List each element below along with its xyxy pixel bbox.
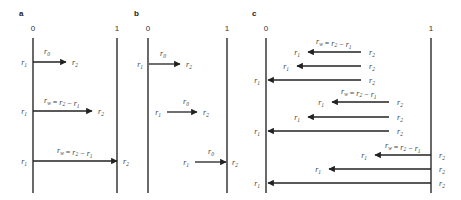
group-annotation: rw = r2 − r1 (316, 37, 352, 50)
group-annotation: rw = r2 − r1 (341, 87, 377, 100)
arrow-annotation: rw = r2 − r1 (44, 96, 80, 109)
end-label: r1 (294, 113, 300, 123)
end-label: r1 (318, 98, 324, 108)
panel-label: b (134, 9, 139, 18)
start-label: r1 (21, 157, 27, 167)
start-label: r2 (369, 62, 375, 72)
start-label: r1 (21, 107, 27, 117)
end-label: r1 (254, 76, 260, 86)
start-label: r2 (439, 179, 445, 189)
diagram-canvas: a01r1r2r0r1r2rw = r2 − r1r1r2rw = r2 − r… (0, 0, 461, 200)
arrow-group: r1r2r0 (21, 47, 78, 68)
group-annotation: rw = r2 − r1 (385, 141, 421, 154)
axis-label-0: 0 (146, 24, 151, 33)
arrow-annotation: r0 (208, 147, 214, 157)
axis-label-1: 1 (225, 24, 230, 33)
start-label: r2 (397, 127, 403, 137)
end-label: r1 (294, 48, 300, 58)
start-label: r2 (439, 165, 445, 175)
panel-c: c01rw = r2 − r1r2r1r2r1r2r1rw = r2 − r1r… (252, 9, 445, 193)
start-label: r1 (155, 108, 161, 118)
arrow-group: r1r2r0 (155, 97, 209, 118)
arrow-annotation: rw = r2 − r1 (57, 146, 93, 159)
end-label: r2 (186, 60, 192, 70)
start-label: r2 (439, 151, 445, 161)
start-label: r2 (397, 113, 403, 123)
arrow-group: rw = r2 − r1r2r1r2r1r2r1 (254, 87, 403, 137)
end-label: r2 (203, 108, 209, 118)
panel-b: b01r1r2r0r1r2r0r1r2r0 (134, 9, 238, 193)
arrow-group: r1r2r0 (137, 49, 192, 70)
start-label: r1 (21, 58, 27, 68)
panel-label: c (252, 9, 257, 18)
panel-a: a01r1r2r0r1r2rw = r2 − r1r1r2rw = r2 − r… (19, 9, 129, 193)
arrow-group: rw = r2 − r1r2r1r2r1r2r1 (254, 141, 445, 189)
arrow-group: r1r2rw = r2 − r1 (21, 146, 129, 167)
start-label: r2 (369, 76, 375, 86)
panel-label: a (19, 9, 24, 18)
start-label: r1 (183, 158, 189, 168)
arrow-annotation: r0 (183, 97, 189, 107)
panels: a01r1r2r0r1r2rw = r2 − r1r1r2rw = r2 − r… (19, 9, 445, 193)
end-label: r2 (98, 107, 104, 117)
axis-label-1: 1 (429, 24, 434, 33)
end-label: r1 (254, 179, 260, 189)
arrow-group: r1r2r0 (183, 147, 238, 168)
end-label: r2 (232, 158, 238, 168)
end-label: r1 (361, 151, 367, 161)
end-label: r2 (123, 157, 129, 167)
axis-label-1: 1 (115, 24, 120, 33)
axis-label-0: 0 (31, 24, 36, 33)
end-label: r1 (254, 127, 260, 137)
start-label: r2 (397, 98, 403, 108)
arrow-group: rw = r2 − r1r2r1r2r1r2r1 (254, 37, 375, 86)
start-label: r1 (137, 60, 143, 70)
end-label: r1 (283, 62, 289, 72)
axis-label-0: 0 (264, 24, 269, 33)
arrow-annotation: r0 (160, 49, 166, 59)
arrow-annotation: r0 (44, 47, 50, 57)
end-label: r2 (72, 58, 78, 68)
end-label: r1 (315, 165, 321, 175)
start-label: r2 (369, 48, 375, 58)
